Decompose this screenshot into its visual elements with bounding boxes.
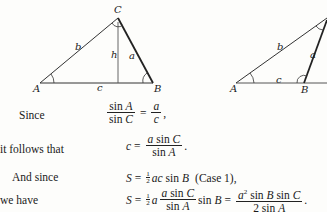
equation-line-2: it follows that c = a sin C sin A .	[0, 133, 327, 167]
side-label-b: b	[75, 42, 81, 52]
side-label-a: a	[310, 50, 316, 60]
vertex-label-C: C	[114, 5, 122, 15]
side-label-c: c	[276, 75, 282, 85]
altitude-label-h: h	[111, 50, 117, 60]
lead-text: Since	[19, 109, 45, 121]
equation: S = 12 ac sin B (Case 1),	[126, 171, 237, 184]
fraction: a sin C sin A	[160, 187, 197, 212]
equation-line-4: we have S = 12 a a sin C sin A sin B = a…	[0, 186, 327, 212]
side-label-c: c	[97, 83, 103, 93]
fraction: sin A sin C	[107, 100, 135, 125]
left-triangle-diagram	[0, 0, 170, 95]
equation: sin A sin C = a c ,	[105, 100, 166, 125]
right-triangle-figure: A B b a c	[170, 0, 327, 95]
side-label-b: b	[277, 42, 283, 52]
fraction: a c	[151, 100, 161, 125]
lead-text: And since	[12, 171, 58, 183]
vertex-label-B: B	[154, 84, 161, 94]
equation: c = a sin C sin A .	[126, 133, 187, 158]
lead-text: we have	[0, 194, 38, 206]
right-triangle-diagram	[170, 0, 327, 95]
one-half: 12	[146, 193, 150, 206]
one-half: 12	[146, 171, 150, 184]
equation: S = 12 a a sin C sin A sin B = a2 sin B …	[126, 186, 307, 212]
side-label-a: a	[129, 51, 135, 61]
vertex-label-B: B	[301, 85, 308, 95]
left-triangle-figure: A B C b a c h	[0, 0, 170, 95]
vertex-label-A: A	[230, 84, 237, 94]
fraction: a sin C sin A	[146, 133, 183, 158]
fraction: a2 sin B sin C 2 sin A	[236, 186, 302, 212]
lead-text: it follows that	[0, 143, 64, 155]
vertex-label-A: A	[33, 84, 40, 94]
equation-line-1: Since sin A sin C = a c ,	[0, 100, 327, 134]
